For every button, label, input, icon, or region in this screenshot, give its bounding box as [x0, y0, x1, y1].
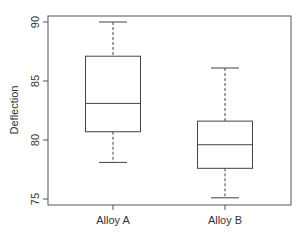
y-tick-label: 80 — [29, 134, 41, 146]
boxplot-chart: 75808590 Alloy AAlloy B Deflection — [0, 0, 306, 237]
y-tick-label: 90 — [29, 16, 41, 28]
y-tick-label: 75 — [29, 193, 41, 205]
box-alloy-a — [86, 22, 141, 162]
x-tick-label: Alloy B — [208, 214, 242, 226]
y-axis-label: Deflection — [8, 86, 20, 135]
y-tick-label: 85 — [29, 75, 41, 87]
frame-rect — [48, 16, 291, 205]
iqr-box — [86, 56, 141, 132]
boxes — [86, 22, 253, 198]
y-axis: 75808590 — [29, 16, 48, 205]
box-alloy-b — [198, 68, 253, 198]
plot-frame — [48, 16, 291, 205]
x-tick-label: Alloy A — [96, 214, 130, 226]
x-axis: Alloy AAlloy B — [96, 205, 242, 226]
